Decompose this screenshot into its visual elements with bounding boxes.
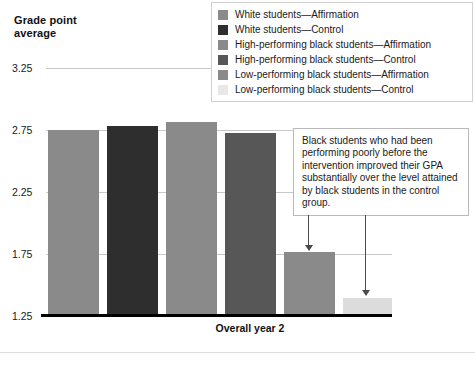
- annotation-arrow-head-1: [305, 245, 313, 251]
- legend-item: High-performing black students—Control: [212, 52, 472, 67]
- legend: White students—Affirmation White student…: [211, 2, 473, 102]
- legend-swatch-icon: [218, 70, 228, 80]
- annotation-callout: Black students who had been performing p…: [293, 128, 469, 216]
- legend-item-label: Low-performing black students—Control: [235, 84, 413, 95]
- legend-swatch-icon: [218, 85, 228, 95]
- legend-item-label: White students—Affirmation: [235, 9, 359, 20]
- bar-white-control: [107, 126, 158, 316]
- legend-item: White students—Affirmation: [212, 7, 472, 22]
- x-axis-baseline: [41, 314, 392, 317]
- legend-item-label: White students—Control: [235, 24, 343, 35]
- annotation-arrow-line-1: [308, 215, 309, 248]
- x-axis-label: Overall year 2: [150, 322, 350, 334]
- annotation-arrow-head-2: [362, 290, 370, 296]
- gpa-bar-chart: Grade point average 3.25 2.75 2.25 1.75 …: [0, 0, 475, 366]
- legend-swatch-icon: [218, 40, 228, 50]
- legend-item-label: High-performing black students—Affirmati…: [235, 39, 431, 50]
- footer-divider: [0, 352, 475, 353]
- legend-swatch-icon: [218, 55, 228, 65]
- bar-white-affirmation: [48, 130, 99, 316]
- legend-item: High-performing black students—Affirmati…: [212, 37, 472, 52]
- bar-high-performing-affirmation: [166, 122, 217, 316]
- legend-item: Low-performing black students—Control: [212, 82, 472, 97]
- legend-swatch-icon: [218, 25, 228, 35]
- legend-swatch-icon: [218, 10, 228, 20]
- legend-item-label: High-performing black students—Control: [235, 54, 416, 65]
- bar-low-performing-affirmation: [284, 252, 335, 316]
- legend-item-label: Low-performing black students—Affirmatio…: [235, 69, 429, 80]
- annotation-arrow-line-2: [365, 215, 366, 292]
- bar-high-performing-control: [225, 133, 276, 316]
- legend-item: White students—Control: [212, 22, 472, 37]
- legend-item: Low-performing black students—Affirmatio…: [212, 67, 472, 82]
